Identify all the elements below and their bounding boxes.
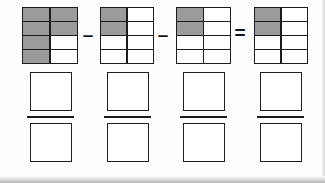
grid-cell[interactable] bbox=[128, 50, 153, 63]
fraction-answer-2 bbox=[107, 72, 151, 162]
equals-operator: = bbox=[232, 23, 248, 42]
numerator-input[interactable] bbox=[107, 72, 149, 111]
grid-cell[interactable] bbox=[255, 8, 280, 21]
grid-cell[interactable] bbox=[101, 8, 126, 21]
grid-cell[interactable] bbox=[255, 36, 280, 49]
grid-cell[interactable] bbox=[23, 36, 49, 49]
grid-cell[interactable] bbox=[51, 36, 77, 49]
grid-cell[interactable] bbox=[204, 22, 230, 35]
grid-model-subtrahend-1 bbox=[100, 7, 154, 64]
grid-cell[interactable] bbox=[101, 22, 126, 35]
scan-edge-bottom bbox=[0, 176, 325, 183]
numerator-input[interactable] bbox=[30, 72, 72, 111]
grid-cell[interactable] bbox=[177, 36, 203, 49]
grid-cell[interactable] bbox=[282, 22, 307, 35]
fraction-bar bbox=[104, 116, 151, 118]
grid-cell[interactable] bbox=[204, 36, 230, 49]
grid-cell[interactable] bbox=[101, 36, 126, 49]
grid-cell[interactable] bbox=[177, 22, 203, 35]
grid-cell[interactable] bbox=[23, 22, 49, 35]
grid-cell[interactable] bbox=[128, 36, 153, 49]
grid-model-result bbox=[254, 7, 308, 64]
equation-row: – – = bbox=[0, 0, 325, 70]
fraction-bar bbox=[27, 116, 74, 118]
grid-cell[interactable] bbox=[255, 50, 280, 63]
fraction-answer-4 bbox=[260, 72, 304, 162]
numerator-input[interactable] bbox=[260, 72, 302, 111]
denominator-input[interactable] bbox=[30, 123, 72, 162]
grid-model-subtrahend-2 bbox=[176, 7, 231, 64]
fraction-bar bbox=[180, 116, 227, 118]
fraction-worksheet: – – = bbox=[0, 0, 325, 183]
denominator-input[interactable] bbox=[107, 123, 149, 162]
fraction-answer-1 bbox=[30, 72, 74, 162]
grid-cell[interactable] bbox=[23, 50, 49, 63]
grid-cell[interactable] bbox=[51, 8, 77, 21]
grid-cell[interactable] bbox=[282, 36, 307, 49]
numerator-input[interactable] bbox=[183, 72, 225, 111]
grid-cell[interactable] bbox=[51, 50, 77, 63]
grid-cell[interactable] bbox=[204, 50, 230, 63]
minus-operator-2: – bbox=[155, 25, 171, 44]
grid-cell[interactable] bbox=[282, 50, 307, 63]
answer-row bbox=[0, 72, 325, 177]
grid-cell[interactable] bbox=[51, 22, 77, 35]
denominator-input[interactable] bbox=[260, 123, 302, 162]
grid-cell[interactable] bbox=[23, 8, 49, 21]
grid-cell[interactable] bbox=[282, 8, 307, 21]
grid-cell[interactable] bbox=[204, 8, 230, 21]
grid-model-minuend bbox=[22, 7, 78, 64]
fraction-bar bbox=[257, 116, 304, 118]
denominator-input[interactable] bbox=[183, 123, 225, 162]
fraction-answer-3 bbox=[183, 72, 227, 162]
grid-cell[interactable] bbox=[128, 22, 153, 35]
grid-cell[interactable] bbox=[177, 50, 203, 63]
grid-cell[interactable] bbox=[255, 22, 280, 35]
grid-cell[interactable] bbox=[101, 50, 126, 63]
minus-operator-1: – bbox=[80, 25, 96, 44]
grid-cell[interactable] bbox=[177, 8, 203, 21]
grid-cell[interactable] bbox=[128, 8, 153, 21]
